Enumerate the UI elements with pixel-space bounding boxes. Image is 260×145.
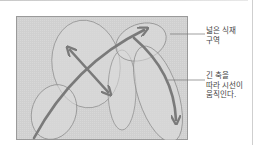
label-wide-planting-area: 넓은 식재 구역 xyxy=(206,26,236,45)
label-gaze-long-axis: 긴 축을 따라 시선이 움직인다. xyxy=(206,71,243,100)
